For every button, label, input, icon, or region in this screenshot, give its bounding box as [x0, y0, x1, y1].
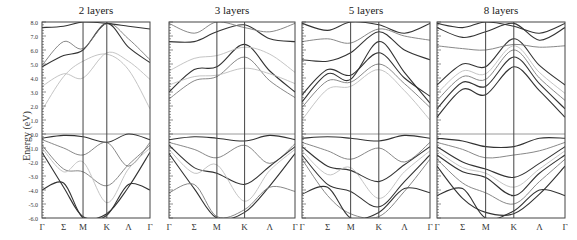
x-tick-label: M: [482, 222, 490, 232]
band-line: [169, 142, 295, 163]
x-tick-label: K: [241, 222, 248, 232]
x-tick-label: K: [511, 222, 518, 232]
y-tick-label: 2.0: [31, 104, 39, 110]
x-tick-label: Σ: [325, 222, 330, 232]
band-line: [42, 52, 150, 86]
y-tick-label: -6.0: [29, 216, 39, 222]
panel-title: 3 layers: [215, 4, 250, 16]
x-tick-label: Σ: [460, 222, 465, 232]
panel-title: 5 layers: [349, 4, 384, 16]
band-line: [169, 149, 295, 201]
y-tick-label: -4.0: [29, 188, 39, 194]
y-axis-label: Energy (eV): [21, 111, 32, 161]
band-line: [437, 22, 565, 33]
y-tick-label: 7.0: [31, 34, 39, 40]
band-line: [437, 147, 565, 178]
x-tick-label: Γ: [427, 222, 432, 232]
band-line: [437, 188, 565, 219]
x-tick-label: Γ: [562, 222, 567, 232]
band-line: [42, 182, 150, 221]
x-tick-label: Γ: [292, 222, 297, 232]
x-tick-label: Γ: [299, 222, 304, 232]
band-line: [42, 23, 150, 65]
x-tick-label: Λ: [267, 222, 274, 232]
x-tick-label: Λ: [536, 222, 543, 232]
band-line: [437, 46, 565, 94]
band-line: [302, 42, 430, 104]
x-tick-label: M: [213, 222, 221, 232]
y-tick-label: 3.0: [31, 90, 39, 96]
band-line: [302, 186, 430, 219]
band-line: [169, 22, 295, 33]
band-line: [437, 138, 565, 148]
x-tick-label: Γ: [147, 222, 152, 232]
x-tick-label: K: [104, 222, 111, 232]
bands: [437, 22, 565, 219]
x-tick-label: Γ: [166, 222, 171, 232]
band-line: [437, 142, 565, 158]
y-tick-label: 5.0: [31, 62, 39, 68]
panel-title: 8 layers: [484, 4, 519, 16]
band-line: [169, 25, 295, 43]
band-line: [169, 184, 295, 218]
band-line: [169, 135, 295, 141]
band-line: [42, 22, 150, 29]
band-line: [437, 166, 565, 215]
panel-frame: [302, 22, 430, 218]
band-line: [42, 134, 150, 142]
band-panel-3: 5 layersΓΣMKΛΓ: [299, 4, 432, 232]
bands: [169, 22, 295, 220]
band-panel-1: 2 layersΓΣMKΛΓ: [39, 4, 152, 232]
x-tick-label: Λ: [125, 222, 132, 232]
x-tick-label: K: [376, 222, 383, 232]
y-tick-label: -5.0: [29, 202, 39, 208]
band-structure-figure: 2 layersΓΣMKΛΓ3 layersΓΣMKΛΓ5 layersΓΣMK…: [0, 0, 577, 240]
y-tick-label: 6.0: [31, 48, 39, 54]
y-tick-label: -3.0: [29, 174, 39, 180]
band-line: [302, 135, 430, 141]
x-tick-label: Λ: [401, 222, 408, 232]
band-line: [437, 159, 565, 204]
panel-frame: [169, 22, 295, 218]
panel-title: 2 layers: [79, 4, 114, 16]
x-tick-label: Σ: [61, 222, 66, 232]
band-line: [302, 29, 430, 43]
band-line: [169, 47, 295, 72]
band-line: [302, 159, 430, 218]
band-panel-4: 8 layersΓΣMKΛΓ: [434, 4, 567, 232]
y-tick-label: 4.0: [31, 76, 39, 82]
band-line: [437, 57, 565, 109]
bands: [42, 22, 150, 221]
x-tick-label: Γ: [39, 222, 44, 232]
band-line: [302, 64, 430, 107]
x-tick-label: Σ: [192, 222, 197, 232]
band-line: [42, 148, 150, 203]
band-line: [302, 22, 430, 33]
band-line: [302, 70, 430, 120]
y-tick-label: 8.0: [31, 20, 39, 26]
band-panel-2: 3 layersΓΣMKΛΓ: [166, 4, 297, 232]
x-tick-label: M: [79, 222, 87, 232]
band-line: [437, 67, 565, 117]
band-line: [302, 147, 430, 182]
band-line: [302, 142, 430, 162]
x-tick-label: Γ: [434, 222, 439, 232]
bands: [302, 22, 430, 220]
x-tick-label: M: [347, 222, 355, 232]
band-line: [42, 140, 150, 167]
band-line: [42, 54, 150, 110]
band-line: [42, 23, 150, 66]
